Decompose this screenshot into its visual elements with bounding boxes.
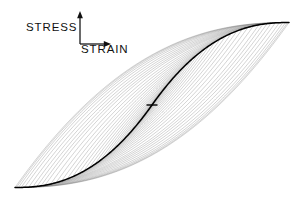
stress-strain-figure: STRESS STRAIN bbox=[0, 0, 306, 203]
up-arrow-icon bbox=[77, 11, 83, 18]
axis-indicator bbox=[77, 11, 111, 47]
strain-axis-label: STRAIN bbox=[81, 44, 129, 56]
stress-axis-label: STRESS bbox=[26, 22, 77, 34]
